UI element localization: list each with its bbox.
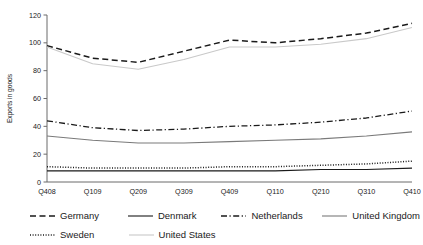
y-tick-label: 20 — [33, 150, 41, 159]
legend-swatch-icon — [128, 211, 153, 221]
x-tick-label: Q109 — [84, 187, 102, 196]
legend-label: Germany — [60, 210, 99, 221]
x-tick-label: Q310 — [358, 187, 376, 196]
x-tick-label: Q210 — [312, 187, 330, 196]
legend-label: Sweden — [60, 229, 94, 240]
series-line-united-kingdom — [47, 132, 412, 143]
legend-label: United States — [159, 229, 216, 240]
legend-item-denmark[interactable]: Denmark — [128, 206, 197, 225]
line-chart: 020406080100120 Q408Q109Q209Q309Q409Q110… — [0, 0, 423, 245]
legend-swatch-icon — [30, 230, 55, 240]
y-tick-label: 100 — [29, 38, 41, 47]
x-tick-label: Q110 — [267, 187, 284, 196]
y-axis-title: Exports in goods — [6, 73, 14, 123]
x-tick-label: Q309 — [175, 187, 193, 196]
x-axis: Q408Q109Q209Q309Q409Q110Q210Q310Q410 — [38, 182, 421, 196]
legend-swatch-icon — [30, 211, 55, 221]
y-tick-label: 0 — [37, 178, 41, 187]
y-tick-label: 40 — [33, 122, 41, 131]
legend-item-sweden[interactable]: Sweden — [30, 225, 94, 244]
legend-item-netherlands[interactable]: Netherlands — [221, 206, 302, 225]
legend-swatch-icon — [322, 211, 347, 221]
y-tick-label: 120 — [29, 11, 41, 20]
legend-item-united-kingdom[interactable]: United Kingdom — [322, 206, 420, 225]
legend-swatch-icon — [221, 211, 246, 221]
y-axis: 020406080100120 — [29, 11, 47, 187]
legend-row: GermanyDenmarkNetherlandsUnited Kingdom — [30, 206, 423, 225]
legend-label: Netherlands — [251, 210, 302, 221]
chart-legend: GermanyDenmarkNetherlandsUnited KingdomS… — [0, 201, 423, 245]
legend-item-united-states[interactable]: United States — [129, 225, 216, 244]
x-tick-label: Q408 — [38, 187, 56, 196]
series-lines — [47, 23, 412, 171]
x-tick-label: Q209 — [129, 187, 147, 196]
series-line-germany — [47, 23, 412, 62]
x-tick-label: Q409 — [221, 187, 239, 196]
series-line-netherlands — [47, 111, 412, 130]
legend-label: Denmark — [158, 210, 197, 221]
legend-row: SwedenUnited States — [30, 225, 423, 244]
x-tick-label: Q410 — [403, 187, 421, 196]
legend-swatch-icon — [129, 230, 154, 240]
chart-plot-area: 020406080100120 Q408Q109Q209Q309Q409Q110… — [0, 0, 423, 200]
series-line-sweden — [47, 161, 412, 168]
legend-item-germany[interactable]: Germany — [30, 206, 99, 225]
legend-label: United Kingdom — [352, 210, 420, 221]
y-tick-label: 80 — [33, 66, 41, 75]
y-tick-label: 60 — [33, 94, 41, 103]
